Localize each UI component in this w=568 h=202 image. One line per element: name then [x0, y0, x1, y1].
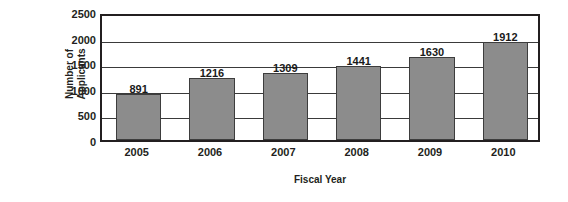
- bar-value-label: 1216: [175, 67, 248, 79]
- y-axis-tick-label: 2000: [50, 34, 96, 46]
- bar: [483, 42, 528, 140]
- bar: [263, 73, 308, 140]
- y-axis-tick-label: 1000: [50, 85, 96, 97]
- y-axis-tick-label: 500: [50, 110, 96, 122]
- bar-value-label: 1630: [395, 46, 468, 58]
- x-axis-title: Fiscal Year: [100, 174, 540, 185]
- bar: [336, 66, 381, 140]
- bar-value-label: 1441: [322, 55, 395, 67]
- x-axis-tick-label: 2007: [271, 146, 295, 158]
- bar-value-label: 891: [102, 83, 175, 95]
- plot-area: 89112161309144116301912: [100, 14, 540, 142]
- bar: [409, 57, 454, 140]
- bar: [116, 94, 161, 140]
- y-axis-tick-labels: 25002000150010005000: [44, 0, 96, 202]
- bar-value-label: 1912: [469, 31, 542, 43]
- bar-chart-figure: Number of Applicants 2500200015001000500…: [0, 0, 568, 202]
- x-axis-tick-label: 2010: [491, 146, 515, 158]
- x-axis-tick-labels: 200520062007200820092010: [100, 146, 540, 166]
- x-axis-tick-label: 2006: [198, 146, 222, 158]
- y-axis-tick-label: 1500: [50, 59, 96, 71]
- x-axis-tick-label: 2005: [124, 146, 148, 158]
- bar: [189, 78, 234, 140]
- gridline: [102, 118, 538, 119]
- x-axis-tick-label: 2008: [344, 146, 368, 158]
- y-axis-tick-label: 2500: [50, 8, 96, 20]
- y-axis-tick-label: 0: [50, 136, 96, 148]
- bar-value-label: 1309: [249, 62, 322, 74]
- x-axis-tick-label: 2009: [418, 146, 442, 158]
